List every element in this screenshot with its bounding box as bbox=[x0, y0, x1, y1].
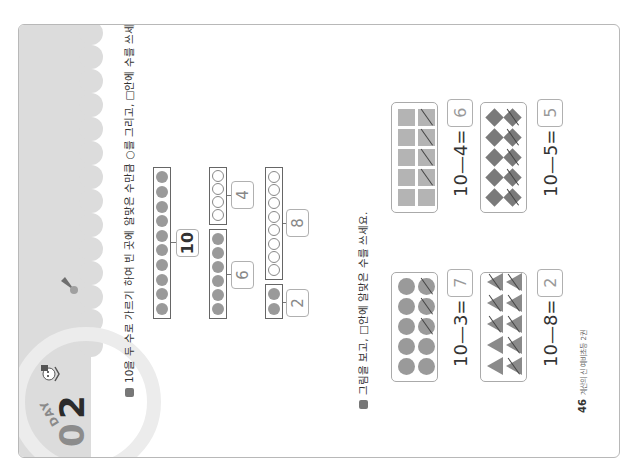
subtrahend: 5 bbox=[540, 145, 561, 156]
diamond-icon bbox=[485, 188, 503, 206]
answer-box-part[interactable]: 2 bbox=[286, 289, 309, 317]
picture-cell bbox=[418, 278, 435, 295]
dot-bar-filled-part bbox=[265, 284, 283, 319]
square-icon bbox=[398, 169, 415, 186]
minuend: 10 bbox=[450, 174, 471, 197]
answer-box[interactable]: 2 bbox=[537, 269, 563, 297]
square-icon bbox=[398, 109, 415, 126]
circle-icon bbox=[398, 358, 415, 375]
picture-cell bbox=[398, 338, 415, 355]
filled-dot bbox=[156, 244, 168, 256]
diamond-icon bbox=[485, 168, 503, 186]
scallop-bump bbox=[79, 165, 103, 189]
circle-icon bbox=[398, 298, 415, 315]
answer-box[interactable]: 7 bbox=[447, 269, 473, 297]
scallop-bump bbox=[79, 285, 103, 309]
minus-sign: — bbox=[450, 156, 471, 174]
subtrahend: 8 bbox=[540, 315, 561, 326]
picture-cell bbox=[398, 358, 415, 375]
minuend: 10 bbox=[540, 344, 561, 367]
mascot-icon bbox=[39, 363, 61, 385]
day-number-zero: 0 bbox=[55, 423, 89, 447]
scallop-bump bbox=[79, 45, 103, 69]
filled-dot bbox=[212, 233, 224, 245]
empty-dot bbox=[268, 224, 280, 236]
square-icon bbox=[398, 129, 415, 146]
minus-sign: — bbox=[540, 156, 561, 174]
subtrahend: 4 bbox=[450, 145, 471, 156]
picture-cell bbox=[487, 336, 503, 354]
filled-dot bbox=[156, 288, 168, 300]
minus-sign: — bbox=[540, 326, 561, 344]
picture-cell bbox=[398, 109, 415, 126]
equation-diamonds: 10—5=5 bbox=[537, 99, 563, 197]
picture-box-triangles bbox=[480, 272, 527, 382]
picture-box-squares bbox=[391, 102, 438, 213]
picture-cell bbox=[506, 273, 522, 291]
filled-dot bbox=[268, 303, 280, 315]
answer-box[interactable]: 5 bbox=[537, 99, 563, 127]
square-icon bbox=[418, 189, 435, 206]
picture-cell bbox=[418, 358, 435, 375]
circle-icon bbox=[398, 278, 415, 295]
filled-dot bbox=[156, 303, 168, 315]
filled-dot bbox=[268, 288, 280, 300]
section2-instruction-text: 그림을 보고, □안에 알맞은 수를 쓰세요. bbox=[357, 212, 369, 395]
section1-instruction-text: 10을 두 수로 가르기 하여 빈 곳에 알맞은 수만큼 ○를 그리고, □안에… bbox=[123, 24, 135, 383]
empty-dot bbox=[212, 197, 224, 209]
picture-cell bbox=[487, 189, 502, 206]
empty-dot bbox=[268, 171, 280, 183]
picture-cell bbox=[505, 149, 520, 166]
circle-icon bbox=[418, 338, 435, 355]
picture-cell bbox=[505, 189, 520, 206]
picture-cell bbox=[487, 109, 502, 126]
instruction-bullet-icon bbox=[125, 388, 134, 397]
picture-cell bbox=[418, 318, 435, 335]
picture-cell bbox=[506, 357, 522, 375]
picture-cell bbox=[505, 109, 520, 126]
picture-cell bbox=[487, 357, 503, 375]
filled-dot bbox=[156, 274, 168, 286]
picture-cell bbox=[398, 149, 415, 166]
picture-cell bbox=[398, 189, 415, 206]
diamond-icon bbox=[485, 148, 503, 166]
picture-cell bbox=[418, 109, 435, 126]
filled-dot bbox=[156, 186, 168, 198]
book-title: 계산의 신 예비초등 2권 bbox=[580, 330, 588, 395]
filled-dot bbox=[212, 275, 224, 287]
equals-sign: = bbox=[540, 130, 561, 145]
answer-box[interactable]: 6 bbox=[447, 99, 473, 127]
answer-box-part[interactable]: 8 bbox=[286, 209, 309, 237]
dot-bar-drawn-part[interactable] bbox=[265, 167, 283, 280]
equals-sign: = bbox=[450, 130, 471, 145]
page-border: DAY 0 2 10을 두 수로 가르기 하여 빈 곳에 알맞은 수만큼 ○를 … bbox=[18, 24, 620, 458]
empty-dot bbox=[268, 184, 280, 196]
worksheet-viewport: DAY 0 2 10을 두 수로 가르기 하여 빈 곳에 알맞은 수만큼 ○를 … bbox=[0, 0, 633, 471]
picture-cell bbox=[418, 129, 435, 146]
minuend: 10 bbox=[540, 174, 561, 197]
picture-box-diamonds bbox=[480, 102, 527, 213]
answer-box-part[interactable]: 4 bbox=[231, 181, 254, 209]
day-number-two: 2 bbox=[55, 395, 89, 419]
dot-bar-filled-part bbox=[209, 229, 227, 319]
empty-dot bbox=[212, 210, 224, 222]
dot-bar-drawn-part[interactable] bbox=[209, 167, 227, 225]
filled-dot bbox=[212, 261, 224, 273]
triangle-icon bbox=[487, 336, 503, 354]
picture-cell bbox=[418, 169, 435, 186]
equation-squares: 10—4=6 bbox=[447, 99, 473, 197]
filled-dot bbox=[156, 215, 168, 227]
picture-cell bbox=[398, 169, 415, 186]
picture-cell bbox=[506, 294, 522, 312]
answer-box-part[interactable]: 6 bbox=[231, 261, 254, 289]
empty-dot bbox=[268, 197, 280, 209]
picture-cell bbox=[487, 129, 502, 146]
filled-dot bbox=[156, 201, 168, 213]
diamond-icon bbox=[485, 128, 503, 146]
empty-dot bbox=[268, 264, 280, 276]
scallop-bump bbox=[79, 69, 103, 93]
page-footer: 46계산의 신 예비초등 2권 bbox=[577, 330, 588, 413]
diamond-icon bbox=[485, 108, 503, 126]
picture-cell bbox=[418, 189, 435, 206]
filled-dot bbox=[156, 230, 168, 242]
